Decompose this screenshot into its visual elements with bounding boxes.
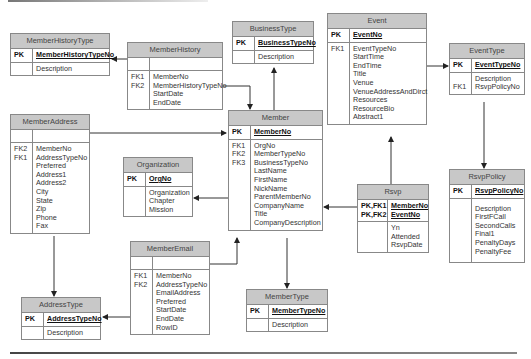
pk-field: MemberTypeNo [272,307,325,316]
field: Description [47,329,97,338]
entity-event-type[interactable]: EventType PK EventTypeNo FK1 Description… [449,43,525,95]
entity-title: EventType [450,44,524,59]
entity-member[interactable]: Member PK MemberNo FK1 FK2 FK3 OrgNo Mem… [228,110,323,231]
bottom-rule [10,352,517,354]
attr-row: FK1 FK2 FK3 OrgNo MemberTypeNo BusinessT… [229,140,322,230]
pk-row [11,130,89,143]
pk-field: OrgNo [149,175,189,184]
pk-row: PK MemberHistoryTypeNo [11,49,109,63]
pk-row: PK EventTypeNo [450,59,524,73]
field: Mission [149,206,190,215]
entity-title: Member [229,111,322,126]
entity-rsvp[interactable]: Rsvp PK,FK1 PK,FK2 MemberNo EventNo Yn A… [357,184,429,253]
pk-row: PK EventNo [328,29,426,43]
field: EndDate [153,99,227,108]
pk-field: MemberNo [254,128,319,137]
attr-row: Description FirstFCall SecondCalls Final… [450,199,524,263]
entity-member-history[interactable]: MemberHistory FK1 FK2 MemberNo MemberHis… [127,42,223,110]
entity-title: MemberType [247,290,327,305]
attr-row: FK1 Description RsvpPolicyNo [450,73,524,94]
attr-row: FK2 FK1 MemberNo AddressTypeNo Preferred… [11,143,89,233]
entity-rsvp-policy[interactable]: RsvpPolicy PK RsvpPolicyNo Description F… [449,169,525,263]
field: RsvpPolicyNo [475,83,521,92]
pk-row: PK AddressTypeNo [22,313,100,327]
pk-field: EventNo [391,211,428,220]
pk-field: BusinessTypeNo [258,39,316,48]
field: CompanyDescription [254,219,321,228]
field: RsvpDate [391,241,425,250]
field: Description [272,321,324,330]
entity-title: Rsvp [358,185,428,200]
attr-row: Description [233,51,313,64]
attr-row: FK1 FK2 MemberNo MemberHistoryTypeNo Sta… [128,71,222,109]
pk-row: PK RsvpPolicyNo [450,185,524,199]
entity-address-type[interactable]: AddressType PK AddressTypeNo Description [21,297,101,340]
pk-field: AddressTypeNo [47,315,102,324]
link-memberemail-member [210,238,237,264]
field: PenaltyFee [475,248,521,257]
field: Fax [36,222,87,231]
entity-member-email[interactable]: MemberEmail FK1 FK2 MemberNo AddressType… [130,241,210,335]
entity-title: RsvpPolicy [450,170,524,185]
attr-row: Yn Attended RsvpDate [358,222,428,252]
field: RowID [156,324,207,333]
attr-row: Description [11,63,109,76]
entity-member-type[interactable]: MemberType PK MemberTypeNo Description [246,289,328,332]
entity-organization[interactable]: Organization PK OrgNo Organization Chapt… [123,157,193,217]
pk-row [131,257,209,270]
attr-row: Description [22,327,100,340]
pk-field: MemberHistoryTypeNo [36,51,114,60]
attr-row: FK1 EventTypeNo StartTime EndTime Title … [328,43,426,124]
entity-title: Event [328,14,426,29]
pk-field: EventTypeNo [475,61,521,70]
attr-row: Description [247,319,327,332]
field: Description [36,65,106,74]
entity-title: AddressType [22,298,100,313]
entity-member-history-type[interactable]: MemberHistoryType PK MemberHistoryTypeNo… [10,33,110,76]
pk-field: EventNo [353,31,423,40]
pk-row: PK OrgNo [124,173,192,187]
field: Description [258,53,310,62]
entity-business-type[interactable]: BusinessType PK BusinessTypeNo Descripti… [232,21,314,64]
pk-field: RsvpPolicyNo [475,187,523,196]
pk-row: PK MemberTypeNo [247,305,327,319]
entity-event[interactable]: Event PK EventNo FK1 EventTypeNo StartTi… [327,13,427,125]
entity-title: MemberAddress [11,115,89,130]
entity-title: Organization [124,158,192,173]
entity-title: MemberEmail [131,242,209,257]
field: Abstract1 [353,113,427,122]
entity-title: MemberHistoryType [11,34,109,49]
attr-row: Organization Chapter Mission [124,187,192,217]
pk-row: PK BusinessTypeNo [233,37,313,51]
attr-row: FK1 FK2 MemberNo AddressTypeNo EmailAddr… [131,270,209,334]
pk-row: PK,FK1 PK,FK2 MemberNo EventNo [358,200,428,222]
entity-title: MemberHistory [128,43,222,58]
pk-row [128,58,222,71]
entity-member-address[interactable]: MemberAddress FK2 FK1 MemberNo AddressTy… [10,114,90,234]
entity-title: BusinessType [233,22,313,37]
pk-row: PK MemberNo [229,126,322,140]
